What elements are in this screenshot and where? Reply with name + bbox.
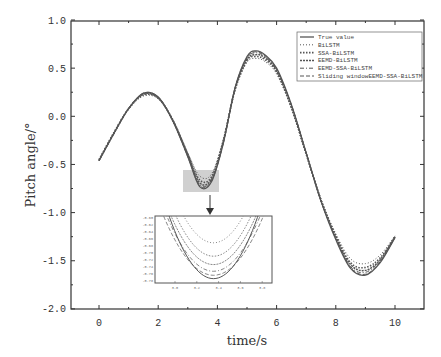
zoom-region-box <box>183 170 219 192</box>
inset-x-tick-label: 3.8 <box>259 286 265 290</box>
inset-y-tick-label: -0.60 <box>142 216 153 220</box>
inset-x-tick-label: 3.2 <box>194 286 200 290</box>
inset-y-tick-label: -0.74 <box>142 265 153 269</box>
pitch-angle-chart: 0246810 1.00.50.0-0.5-1.0-1.5-2.0 time/s… <box>0 0 441 357</box>
y-tick-label: -1.0 <box>42 208 66 219</box>
legend-item-label: BiLSTM <box>318 42 340 49</box>
inset-y-tick-label: -0.76 <box>142 272 153 276</box>
y-tick-label: 0.5 <box>48 64 66 75</box>
x-tick-label: 0 <box>96 318 102 329</box>
inset-y-tick-label: -0.68 <box>142 244 153 248</box>
inset-y-tick-label: -0.62 <box>142 223 153 227</box>
x-axis-label: time/s <box>227 333 267 348</box>
legend-item-label: Sliding windowEEMD-SSA-BiLSTM <box>318 73 423 80</box>
inset-y-tick-label: -0.64 <box>142 230 153 234</box>
inset-x-tick-label: 3.6 <box>237 286 243 290</box>
inset-x-tick-label: 3.4 <box>215 286 221 290</box>
x-tick-label: 8 <box>333 318 339 329</box>
zoom-arrow-icon <box>206 195 214 215</box>
x-tick-label: 10 <box>389 318 401 329</box>
inset-y-tick-label: -0.66 <box>142 237 153 241</box>
inset-y-tick-label: -0.78 <box>142 279 153 283</box>
legend-item-label: True value <box>318 34 354 41</box>
legend-item-label: EEMD-BiLSTM <box>318 57 358 64</box>
legend-item-label: EEMD-SSA-BiLSTM <box>318 65 372 72</box>
y-tick-label: -1.5 <box>42 256 66 267</box>
y-tick-label: -2.0 <box>42 304 66 315</box>
legend: True valueBiLSTMSSA-BiLSTMEEMD-BiLSTMEEM… <box>297 32 423 81</box>
x-tick-label: 2 <box>155 318 161 329</box>
inset-y-tick-label: -0.70 <box>142 251 153 255</box>
legend-item-label: SSA-BiLSTM <box>318 50 354 57</box>
inset-y-tick-label: -0.72 <box>142 258 153 262</box>
y-tick-label: -0.5 <box>42 160 66 171</box>
y-tick-label: 1.0 <box>48 16 66 27</box>
inset-magnified-plot: 3.03.23.43.63.8-0.60-0.62-0.64-0.66-0.68… <box>142 140 272 290</box>
x-tick-label: 6 <box>274 318 280 329</box>
inset-x-tick-label: 3.0 <box>172 286 178 290</box>
x-tick-label: 4 <box>214 318 220 329</box>
y-tick-label: 0.0 <box>48 112 66 123</box>
y-axis-label: Pitch angle/° <box>23 122 38 207</box>
